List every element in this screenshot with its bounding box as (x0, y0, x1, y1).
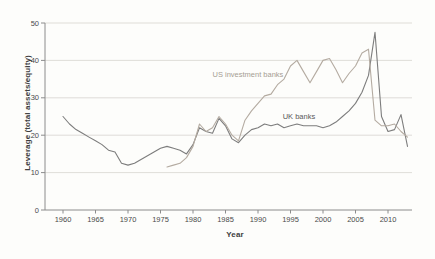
x-tick-label-1975: 1975 (152, 215, 169, 224)
x-tick-label-1960: 1960 (55, 215, 72, 224)
y-axis-title: Leverage (total assets/equity) (23, 18, 35, 208)
x-tick-label-1965: 1965 (87, 215, 104, 224)
chart-plot-area: 0102030405019601965197019751980198519901… (0, 0, 435, 259)
series-label-uk-banks: UK banks (283, 112, 316, 121)
x-axis-title: Year (214, 230, 256, 239)
x-tick-label-2000: 2000 (315, 215, 332, 224)
x-tick-label-2005: 2005 (347, 215, 364, 224)
x-tick-label-2010: 2010 (380, 215, 397, 224)
series-line-us-investment-banks (167, 49, 408, 167)
y-tick-label-0: 0 (35, 206, 39, 215)
x-tick-label-1990: 1990 (250, 215, 267, 224)
leverage-line-chart: 0102030405019601965197019751980198519901… (0, 0, 435, 259)
x-tick-label-1995: 1995 (282, 215, 299, 224)
series-line-uk-banks (63, 32, 408, 165)
x-tick-label-1985: 1985 (217, 215, 234, 224)
series-label-us-investment-banks: US investment banks (213, 70, 284, 79)
x-tick-label-1980: 1980 (185, 215, 202, 224)
x-tick-label-1970: 1970 (120, 215, 137, 224)
